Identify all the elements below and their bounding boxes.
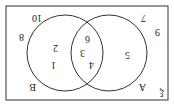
set-b-label: B bbox=[29, 82, 36, 93]
outside-9: 9 bbox=[155, 27, 160, 38]
set-b-circle bbox=[27, 15, 103, 91]
venn-svg: ξ A B 5 4 3 6 1 2 9 7 8 10 bbox=[0, 0, 174, 106]
region-ab-4: 4 bbox=[89, 60, 94, 71]
region-a-only-5: 5 bbox=[125, 50, 130, 61]
region-b-only-2: 2 bbox=[53, 43, 58, 54]
outside-7: 7 bbox=[141, 13, 146, 24]
region-ab-6: 6 bbox=[85, 34, 90, 45]
set-a-label: A bbox=[138, 82, 146, 93]
venn-diagram: ξ A B 5 4 3 6 1 2 9 7 8 10 bbox=[0, 0, 174, 106]
universal-set-label: ξ bbox=[159, 87, 164, 99]
region-ab-3: 3 bbox=[80, 48, 85, 59]
region-b-only-1: 1 bbox=[51, 60, 56, 71]
outside-8: 8 bbox=[19, 32, 24, 43]
outside-10: 10 bbox=[32, 13, 42, 24]
